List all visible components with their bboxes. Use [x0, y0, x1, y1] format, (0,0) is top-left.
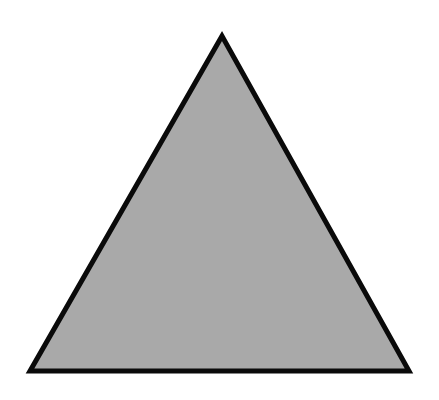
diagram-canvas [0, 0, 439, 400]
triangle-shape [30, 36, 409, 371]
triangle-figure [0, 0, 439, 400]
